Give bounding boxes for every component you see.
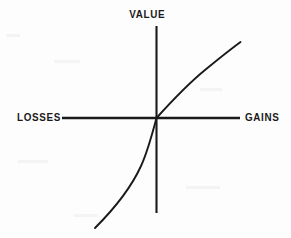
y-axis-label-value-text: VALUE bbox=[129, 9, 165, 20]
value-curve-gains-branch bbox=[157, 42, 241, 118]
value-curve-losses-branch bbox=[95, 118, 157, 228]
prospect-theory-value-function-figure: VALUE LOSSES GAINS bbox=[0, 0, 291, 238]
y-axis-label-value: VALUE bbox=[0, 9, 291, 20]
x-axis-label-losses: LOSSES bbox=[17, 112, 61, 123]
x-axis-label-gains: GAINS bbox=[245, 112, 280, 123]
